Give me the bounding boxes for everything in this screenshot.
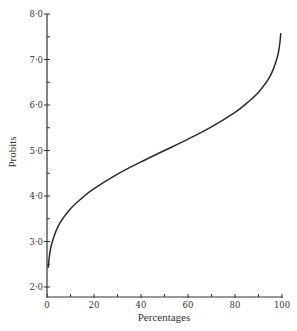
y-tick-label: 3·0	[29, 237, 43, 247]
y-tick-label: 7·0	[29, 55, 43, 65]
x-tick-label: 40	[136, 300, 147, 310]
x-tick-label: 0	[44, 300, 49, 310]
y-tick-label: 5·0	[29, 146, 43, 156]
y-tick-label: 2·0	[29, 282, 43, 292]
y-tick-label: 4·0	[29, 191, 43, 201]
x-tick-label: 20	[89, 300, 100, 310]
x-tick-label: 80	[230, 300, 241, 310]
x-tick-label: 60	[183, 300, 194, 310]
probit-curve	[48, 33, 281, 268]
y-axis: 2·03·04·05·06·07·08·0	[29, 9, 50, 297]
y-tick-label: 6·0	[29, 100, 43, 110]
x-axis: 020406080100	[44, 294, 290, 310]
x-axis-title: Percentages	[138, 311, 191, 323]
probit-chart: 2·03·04·05·06·07·08·0 020406080100 Perce…	[0, 0, 297, 331]
y-tick-label: 8·0	[29, 9, 43, 19]
x-tick-label: 100	[274, 300, 290, 310]
y-axis-title: Probits	[6, 136, 18, 167]
